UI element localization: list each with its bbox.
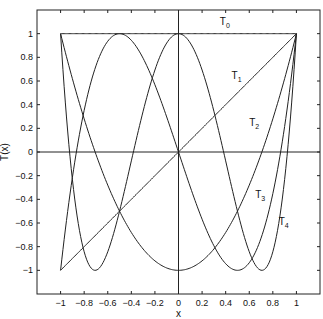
- x-tick-label: −1: [55, 298, 65, 308]
- x-tick-label: −0.6: [99, 298, 117, 308]
- x-tick-label: 0.2: [196, 298, 209, 308]
- y-tick-label: 0: [28, 147, 33, 157]
- y-tick-label: −1: [23, 265, 33, 275]
- x-tick-label: 0.4: [219, 298, 232, 308]
- x-tick-label: 0.6: [243, 298, 256, 308]
- x-axis-label: x: [176, 308, 181, 319]
- y-tick-label: −0.8: [15, 242, 33, 252]
- x-tick-label: −0.4: [122, 298, 140, 308]
- label-t1: T1: [232, 70, 242, 83]
- y-tick-label: −0.2: [15, 171, 33, 181]
- y-tick-label: 0.6: [20, 76, 33, 86]
- curve-labels: T0T1T2T3T4: [220, 16, 289, 229]
- label-t2: T2: [249, 117, 259, 130]
- y-tick-label: 0.8: [20, 52, 33, 62]
- label-t3: T3: [255, 189, 265, 202]
- x-tick-label: −0.2: [146, 298, 164, 308]
- y-axis-label: T(x): [0, 143, 10, 161]
- x-tick-label: 1: [294, 298, 299, 308]
- chebyshev-chart: −1−0.8−0.6−0.4−0.200.20.40.60.81−1−0.8−0…: [0, 0, 323, 319]
- y-tick-label: −0.6: [15, 218, 33, 228]
- y-tick-label: 1: [28, 29, 33, 39]
- x-tick-label: 0: [176, 298, 181, 308]
- label-t4: T4: [279, 216, 289, 229]
- label-t0: T0: [220, 16, 230, 29]
- y-tick-label: 0.2: [20, 123, 33, 133]
- y-tick-label: 0.4: [20, 100, 33, 110]
- x-tick-label: 0.8: [267, 298, 280, 308]
- x-tick-label: −0.8: [75, 298, 93, 308]
- y-tick-label: −0.4: [15, 194, 33, 204]
